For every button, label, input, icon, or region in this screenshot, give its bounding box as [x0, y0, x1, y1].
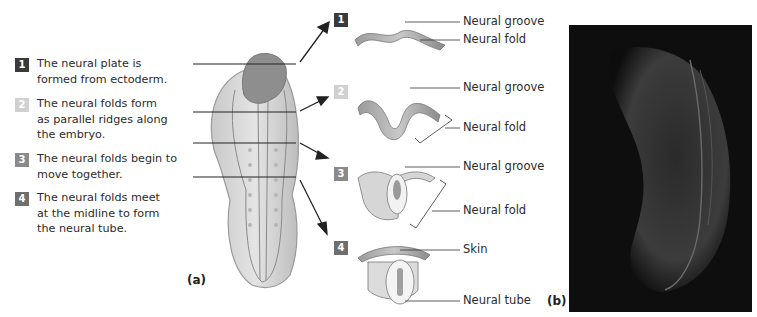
label-neural-groove-2: Neural groove — [463, 80, 544, 94]
label-neural-fold-1: Neural fold — [463, 32, 526, 46]
arrows — [300, 22, 329, 234]
panel-a-label: (a) — [187, 273, 206, 287]
step-text-1: The neural plate is formed from ectoderm… — [37, 56, 177, 87]
panel-b-label: (b) — [547, 294, 567, 308]
step-badge-2: 2 — [15, 98, 29, 112]
section-badge-2: 2 — [334, 85, 348, 99]
step-text-4: The neural folds meet at the midline to … — [37, 190, 165, 237]
cross-section-1 — [355, 22, 460, 50]
cross-section-2 — [358, 88, 460, 143]
label-neural-groove-3: Neural groove — [463, 159, 544, 173]
cross-section-4 — [358, 247, 460, 304]
embryo-illustration — [211, 53, 298, 287]
step-badge-1: 1 — [15, 58, 29, 72]
section-badge-4: 4 — [334, 241, 348, 255]
label-neural-fold-2: Neural fold — [463, 120, 526, 134]
label-skin: Skin — [463, 242, 487, 256]
label-neural-fold-3: Neural fold — [463, 203, 526, 217]
section-badge-3: 3 — [334, 167, 348, 181]
step-text-3: The neural folds begin to move together. — [37, 151, 177, 182]
step-badge-4: 4 — [15, 192, 29, 206]
step-text-2: The neural folds form as parallel ridges… — [37, 96, 172, 143]
cross-section-3 — [358, 167, 460, 228]
label-neural-tube: Neural tube — [463, 293, 531, 307]
label-neural-groove-1: Neural groove — [463, 14, 544, 28]
section-badge-1: 1 — [334, 13, 348, 27]
embryo-photo — [569, 25, 752, 312]
step-badge-3: 3 — [15, 153, 29, 167]
